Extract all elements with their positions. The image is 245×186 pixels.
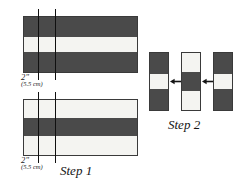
- top-strip-set-panel: [23, 16, 138, 73]
- measurement-metric-bottom: (5.5 cm): [21, 164, 43, 171]
- strip-piecing-diagram: 2" (5.5 cm) 2" (5.5 cm) Step 1: [0, 0, 245, 186]
- left-arrow-icon-first: [170, 77, 181, 86]
- segment-light-top: [182, 53, 200, 72]
- measurement-metric-top: (5.5 cm): [21, 81, 43, 88]
- measurement-label-bottom: 2" (5.5 cm): [21, 156, 43, 170]
- segment-light-middle: [150, 74, 168, 90]
- bottom-strip-set-panel: [23, 99, 138, 156]
- step-2-caption: Step 2: [168, 117, 200, 133]
- step-1-caption: Step 1: [60, 163, 92, 179]
- cut-line-top-first: [38, 9, 39, 80]
- band-light-middle: [24, 37, 137, 52]
- band-dark-middle: [24, 118, 137, 137]
- segment-dark-top: [150, 53, 168, 74]
- step2-left-strip: [149, 52, 169, 111]
- band-dark-bottom: [24, 52, 137, 72]
- cut-line-bottom-first: [38, 92, 39, 163]
- band-light-top: [24, 100, 137, 118]
- cut-line-top-second: [55, 9, 56, 80]
- segment-dark-top-right: [214, 53, 232, 74]
- segment-dark-bottom: [150, 89, 168, 110]
- segment-dark-bottom-right: [214, 89, 232, 110]
- cut-line-bottom-second: [55, 92, 56, 163]
- step2-middle-strip: [181, 52, 201, 111]
- segment-dark-middle: [182, 72, 200, 91]
- measurement-label-top: 2" (5.5 cm): [21, 73, 43, 87]
- band-light-bottom: [24, 136, 137, 155]
- segment-light-middle-right: [214, 74, 232, 90]
- segment-light-bottom: [182, 91, 200, 110]
- left-arrow-icon-second: [202, 77, 213, 86]
- step2-right-strip: [213, 52, 233, 111]
- band-dark-top: [24, 17, 137, 37]
